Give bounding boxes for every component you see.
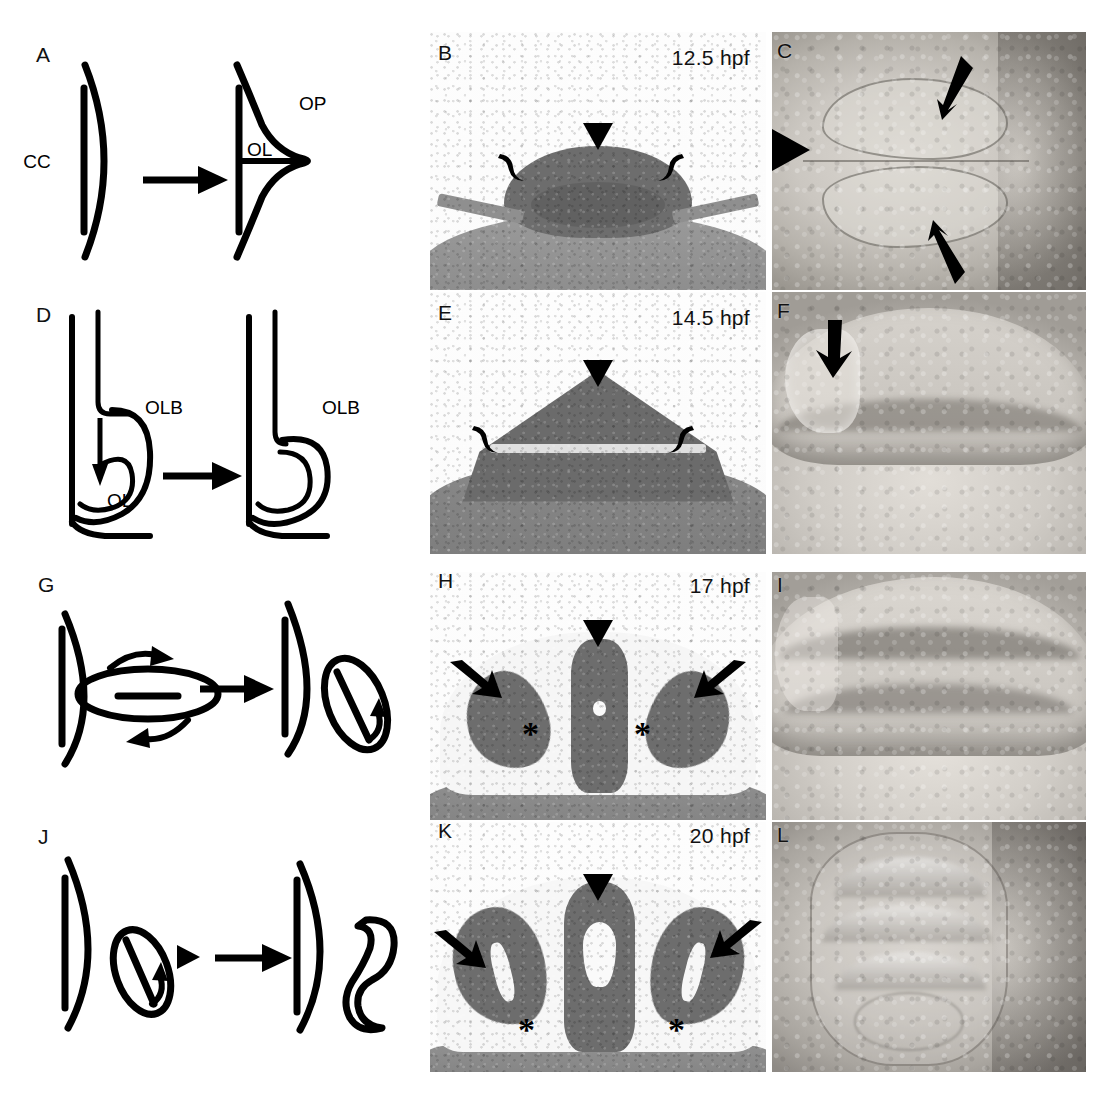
arrow-lower-c bbox=[907, 218, 969, 286]
dark-edge-l bbox=[992, 822, 1086, 1072]
label-olb-right: OLB bbox=[322, 397, 360, 418]
panel-g: G bbox=[0, 572, 425, 820]
asterisk-left-h: * bbox=[522, 724, 539, 744]
arrowhead-marker-c bbox=[772, 128, 810, 172]
panel-g-diagram bbox=[0, 572, 425, 820]
bracket-left-icon-e bbox=[470, 422, 500, 456]
arrowhead-marker-j bbox=[177, 945, 200, 969]
arrow-right-k bbox=[706, 918, 764, 962]
transition-arrow-d bbox=[163, 462, 242, 490]
midline-groove-c bbox=[803, 160, 1029, 162]
label-ol-d: OL bbox=[107, 490, 132, 511]
panel-letter-a: A bbox=[36, 44, 51, 65]
panel-letter-g: G bbox=[38, 574, 55, 595]
label-op: OP bbox=[299, 93, 326, 114]
bracket-right-icon-e bbox=[666, 422, 696, 456]
placode-axis-j bbox=[126, 940, 154, 1004]
panel-letter-h: H bbox=[438, 572, 454, 591]
panel-h: H 17 hpf * * bbox=[430, 572, 766, 820]
panel-letter-j: J bbox=[38, 826, 49, 847]
panel-d-diagram: OL OLB OLB bbox=[0, 292, 425, 560]
arrow-icon-c-lower bbox=[907, 218, 969, 286]
crescent-right-g bbox=[288, 604, 307, 754]
placode-ellipse-tilted-g bbox=[312, 649, 400, 759]
panel-j: J bbox=[0, 822, 425, 1072]
arrow-left-k bbox=[432, 928, 490, 972]
asterisk-right-k: * bbox=[668, 1020, 685, 1040]
arrow-left-h bbox=[448, 658, 506, 702]
rotation-arrow-bottom-g bbox=[126, 720, 188, 748]
time-label-b: 12.5 hpf bbox=[672, 46, 750, 70]
panel-a: A CC OL OP bbox=[0, 30, 425, 292]
crescent-right-j bbox=[300, 864, 320, 1030]
rotation-arrow-top-g bbox=[110, 646, 174, 668]
panel-l-image bbox=[772, 822, 1086, 1072]
label-olb-left: OLB bbox=[145, 397, 183, 418]
bracket-right-e bbox=[666, 422, 696, 460]
time-label-h: 17 hpf bbox=[690, 574, 750, 598]
panel-c: C bbox=[772, 32, 1086, 290]
bracket-left-icon-b bbox=[496, 150, 526, 184]
panel-letter-k: K bbox=[438, 822, 453, 841]
fold-4-l bbox=[854, 992, 965, 1051]
time-label-k: 20 hpf bbox=[690, 824, 750, 848]
panel-letter-l: L bbox=[777, 824, 789, 845]
label-ol-a: OL bbox=[247, 139, 272, 160]
optic-bulge-i bbox=[775, 597, 838, 711]
arrow-icon-h-left bbox=[448, 658, 506, 702]
inner-wall-left-d bbox=[98, 312, 128, 414]
ingress-arrow-d bbox=[92, 418, 108, 486]
panel-e: E 14.5 hpf bbox=[430, 292, 766, 554]
arrowhead-marker-e bbox=[583, 360, 613, 387]
arrow-right-h bbox=[690, 658, 748, 702]
panel-b-image bbox=[430, 32, 766, 290]
time-label-e: 14.5 hpf bbox=[672, 306, 750, 330]
arrow-upper-c bbox=[917, 54, 979, 122]
outer-floor-left-d bbox=[72, 522, 150, 536]
panel-letter-d: D bbox=[36, 304, 52, 325]
panel-j-diagram bbox=[0, 822, 425, 1072]
arrow-f bbox=[812, 318, 856, 380]
panel-letter-f: F bbox=[777, 300, 790, 321]
figure-root: A CC OL OP bbox=[0, 0, 1110, 1099]
panel-f: F bbox=[772, 292, 1086, 554]
transition-arrow-j bbox=[215, 944, 292, 972]
arrow-icon-h-right bbox=[690, 658, 748, 702]
panel-d: D OL OLB bbox=[0, 292, 425, 560]
panel-letter-b: B bbox=[438, 42, 453, 63]
neural-tube-h bbox=[571, 639, 628, 793]
arrowhead-marker-b bbox=[583, 123, 613, 150]
arrow-icon-f bbox=[812, 318, 856, 380]
panel-l: L bbox=[772, 822, 1086, 1072]
crescent-left-j bbox=[68, 860, 88, 1028]
panel-a-diagram: CC OL OP bbox=[0, 30, 425, 292]
panel-letter-e: E bbox=[438, 302, 453, 323]
bracket-right-icon-b bbox=[656, 150, 686, 184]
arrow-icon-c-upper bbox=[917, 54, 979, 122]
arrow-icon-k-left bbox=[432, 928, 490, 972]
panel-i: I bbox=[772, 572, 1086, 820]
panel-k: K 20 hpf * * bbox=[430, 822, 766, 1072]
transition-arrow-a bbox=[143, 166, 228, 194]
neural-keel-core-b bbox=[531, 182, 665, 228]
asterisk-right-h: * bbox=[634, 724, 651, 744]
panel-b: B 12.5 hpf bbox=[430, 32, 766, 290]
panel-letter-i: I bbox=[777, 574, 783, 595]
inner-wall-right-d bbox=[275, 312, 286, 444]
panel-i-image bbox=[772, 572, 1086, 820]
panel-letter-c: C bbox=[777, 40, 793, 61]
arrowhead-marker-k bbox=[583, 874, 613, 901]
arrowhead-marker-h bbox=[583, 620, 613, 647]
crescent-left-a bbox=[85, 65, 104, 257]
lobe-upper-c bbox=[822, 78, 1008, 159]
olb-inner-right-d bbox=[258, 452, 310, 511]
label-cc: CC bbox=[23, 151, 50, 172]
bracket-left-e bbox=[470, 422, 500, 460]
bracket-left-b bbox=[496, 150, 526, 188]
bracket-right-b bbox=[656, 150, 686, 188]
arrow-icon-k-right bbox=[706, 918, 764, 962]
dark-edge-c bbox=[998, 32, 1086, 290]
asterisk-left-k: * bbox=[518, 1020, 535, 1040]
placode-scurve-j bbox=[346, 920, 394, 1030]
